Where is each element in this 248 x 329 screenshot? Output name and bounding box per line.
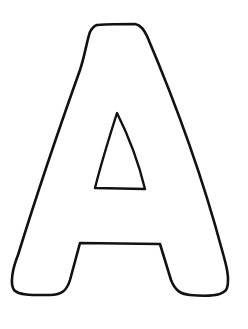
coloring-page	[0, 0, 248, 329]
letter-a-outline	[0, 0, 248, 329]
